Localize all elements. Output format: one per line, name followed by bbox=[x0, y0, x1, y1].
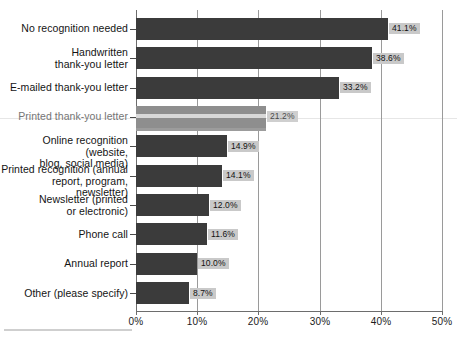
bar bbox=[136, 106, 266, 128]
x-axis-line bbox=[136, 311, 443, 312]
x-axis-tick bbox=[197, 311, 198, 315]
x-axis-tick bbox=[320, 311, 321, 315]
x-axis-tick bbox=[136, 311, 137, 315]
bar-value-label: 14.9% bbox=[228, 141, 259, 152]
y-axis-tick bbox=[130, 117, 136, 118]
x-axis-tick-label: 50% bbox=[432, 316, 453, 327]
category-label: Handwritten thank-you letter bbox=[55, 47, 128, 70]
y-axis-tick bbox=[130, 234, 136, 235]
bar-value-label: 41.1% bbox=[389, 23, 420, 34]
x-axis-tick bbox=[381, 311, 382, 315]
x-axis-tick-label: 10% bbox=[187, 316, 208, 327]
x-axis-tick-label: 30% bbox=[310, 316, 331, 327]
bar bbox=[136, 165, 222, 187]
y-axis-tick bbox=[130, 264, 136, 265]
bar bbox=[136, 194, 209, 216]
category-label: No recognition needed bbox=[21, 23, 128, 35]
category-label: Newsletter (printed or electronic) bbox=[39, 194, 128, 217]
category-label: E-mailed thank-you letter bbox=[10, 82, 128, 94]
gridline bbox=[442, 10, 443, 311]
y-axis-tick bbox=[130, 88, 136, 89]
category-label: Printed thank-you letter bbox=[18, 111, 128, 123]
y-axis-tick bbox=[130, 205, 136, 206]
bar bbox=[136, 77, 339, 99]
category-label: Other (please specify) bbox=[24, 288, 128, 300]
y-axis-tick bbox=[130, 146, 136, 147]
bar bbox=[136, 282, 189, 304]
bar bbox=[136, 18, 388, 40]
y-axis-tick bbox=[130, 293, 136, 294]
x-axis-tick bbox=[258, 311, 259, 315]
x-axis-tick-label: 0% bbox=[129, 316, 144, 327]
scan-artifact-line-lower bbox=[4, 329, 132, 331]
category-label: Annual report bbox=[64, 258, 128, 270]
x-axis-tick bbox=[442, 311, 443, 315]
x-axis-tick-label: 40% bbox=[371, 316, 392, 327]
y-axis-tick bbox=[130, 29, 136, 30]
bar-value-label: 33.2% bbox=[340, 82, 371, 93]
y-axis-tick bbox=[130, 176, 136, 177]
bar-value-label: 12.0% bbox=[210, 200, 241, 211]
bar-value-label: 38.6% bbox=[373, 53, 404, 64]
bar-chart: 0%10%20%30%40%50% 41.1%38.6%33.2%21.2%14… bbox=[0, 0, 457, 338]
bar bbox=[136, 47, 372, 69]
bar bbox=[136, 223, 207, 245]
bar-value-label: 10.0% bbox=[198, 258, 229, 269]
category-label: Phone call bbox=[78, 229, 128, 241]
bar-value-label: 11.6% bbox=[208, 229, 238, 240]
bar-value-label: 8.7% bbox=[190, 288, 216, 299]
bar bbox=[136, 253, 197, 275]
y-axis-tick bbox=[130, 58, 136, 59]
bar-value-label: 21.2% bbox=[267, 111, 298, 122]
bar-value-label: 14.1% bbox=[223, 170, 254, 181]
x-axis-tick-label: 20% bbox=[248, 316, 269, 327]
bar bbox=[136, 135, 227, 157]
